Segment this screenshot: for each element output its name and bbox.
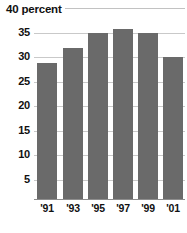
footnote-strip — [0, 224, 187, 233]
gridline-40 — [60, 8, 185, 9]
x-axis-baseline — [34, 199, 185, 200]
bar-2001 — [163, 57, 183, 200]
bar-1995 — [88, 33, 108, 200]
y-axis-label-20: 20 — [0, 100, 30, 111]
y-axis-label-35: 35 — [0, 27, 30, 38]
plot-area: 40 percent 35 30 25 20 15 10 5 '91 '93 '… — [0, 0, 187, 210]
y-axis-label-30: 30 — [0, 51, 30, 62]
chart-title: 40 percent — [6, 3, 65, 15]
y-axis-label-25: 25 — [0, 76, 30, 87]
bar-1991 — [37, 63, 57, 200]
bar-1993 — [63, 48, 83, 200]
y-axis-label-15: 15 — [0, 125, 30, 136]
y-axis-label-10: 10 — [0, 149, 30, 160]
bar-1999 — [138, 33, 158, 200]
x-axis-label-2001: '01 — [158, 203, 187, 214]
bar-1997 — [113, 29, 133, 200]
gridline-35 — [34, 33, 185, 34]
bar-chart-figure: 40 percent 35 30 25 20 15 10 5 '91 '93 '… — [0, 0, 187, 233]
y-axis-label-5: 5 — [0, 174, 30, 185]
